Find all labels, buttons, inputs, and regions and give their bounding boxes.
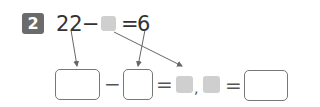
arrow-square-to-square (114, 32, 182, 66)
answer-equals-sign-2: = (225, 73, 242, 97)
equation-equals-sign: = (121, 12, 139, 36)
answer-box-1[interactable] (55, 69, 100, 100)
equation-left-operand: 22 (56, 12, 83, 36)
answer-box-3[interactable] (244, 70, 288, 101)
problem-number-badge: 2 (22, 13, 44, 34)
unknown-placeholder-square (101, 16, 116, 31)
placeholder-square-1 (176, 76, 193, 93)
answer-equals-sign-1: = (156, 72, 173, 96)
equation-result: 6 (137, 12, 150, 36)
answer-box-2[interactable] (123, 69, 153, 100)
placeholder-square-2 (203, 76, 220, 93)
answer-comma: , (194, 76, 198, 100)
answer-minus-sign: − (104, 72, 121, 96)
equation-minus-sign: − (82, 12, 100, 36)
